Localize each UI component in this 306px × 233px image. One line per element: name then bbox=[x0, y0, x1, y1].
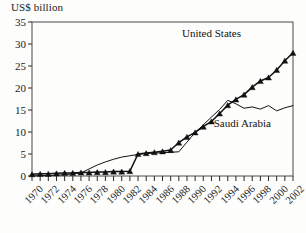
chart-figure: US$ billion 05101520253035 1970197219741… bbox=[0, 0, 306, 233]
axes bbox=[28, 22, 293, 181]
data-series bbox=[29, 50, 296, 177]
series-label-united-states: United States bbox=[182, 27, 241, 39]
series-label-saudi-arabia: Saudi Arabia bbox=[214, 117, 271, 129]
